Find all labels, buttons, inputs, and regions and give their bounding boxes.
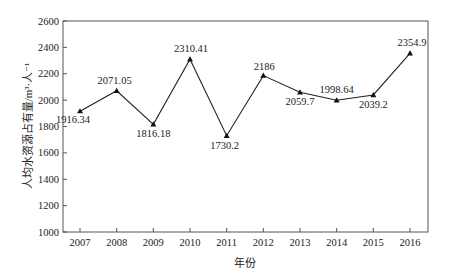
x-axis-ticks: 2007200820092010201120122013201420152016 — [70, 228, 421, 248]
x-tick-label: 2010 — [180, 237, 201, 248]
series-markers — [77, 50, 413, 138]
triangle-marker-icon — [407, 50, 413, 55]
data-label: 2354.9 — [398, 37, 427, 48]
data-label: 2310.41 — [174, 43, 208, 54]
y-axis-title: 人均水资源占有量/m³·人⁻¹ — [21, 63, 34, 190]
data-label: 1730.2 — [210, 140, 239, 151]
y-tick-label: 1200 — [38, 200, 59, 211]
triangle-marker-icon — [260, 73, 266, 78]
triangle-marker-icon — [224, 133, 230, 138]
data-label: 1816.18 — [136, 128, 170, 139]
x-tick-label: 2007 — [70, 237, 91, 248]
x-tick-label: 2012 — [253, 237, 274, 248]
y-tick-label: 1000 — [38, 227, 59, 238]
triangle-marker-icon — [187, 56, 193, 61]
plot-frame — [63, 21, 428, 232]
data-label: 1916.34 — [56, 114, 91, 125]
y-tick-label: 2400 — [38, 42, 59, 53]
y-tick-label: 2000 — [38, 95, 59, 106]
data-label: 2071.05 — [98, 75, 132, 86]
data-label: 2186 — [254, 61, 275, 72]
series-line — [80, 53, 410, 135]
x-tick-label: 2015 — [363, 237, 384, 248]
data-label: 1998.64 — [320, 84, 355, 95]
y-tick-label: 2600 — [38, 16, 59, 27]
y-tick-label: 1400 — [38, 174, 59, 185]
y-tick-label: 2200 — [38, 68, 59, 79]
data-label: 2059.7 — [286, 96, 315, 107]
x-tick-label: 2009 — [143, 237, 164, 248]
x-tick-label: 2014 — [326, 237, 348, 248]
x-tick-label: 2011 — [216, 237, 237, 248]
line-chart: 100012001400160018002000220024002600 200… — [0, 0, 454, 275]
triangle-marker-icon — [77, 108, 83, 113]
x-tick-label: 2008 — [106, 237, 127, 248]
x-tick-label: 2016 — [400, 237, 421, 248]
x-axis-title: 年份 — [234, 256, 256, 269]
triangle-marker-icon — [114, 88, 120, 93]
x-tick-label: 2013 — [290, 237, 311, 248]
y-tick-label: 1600 — [38, 147, 59, 158]
data-label: 2039.2 — [359, 99, 388, 110]
